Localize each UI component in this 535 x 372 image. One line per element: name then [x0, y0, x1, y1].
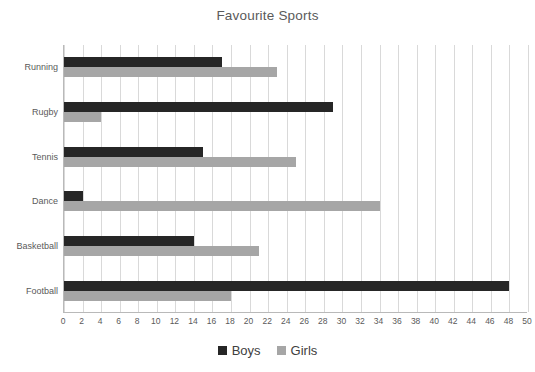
- legend-swatch-icon-girls: [277, 346, 286, 355]
- x-axis-tick-26: 26: [300, 316, 309, 326]
- x-axis-tick-12: 12: [170, 316, 179, 326]
- y-axis-label-football: Football: [0, 268, 58, 313]
- x-axis-tick-32: 32: [355, 316, 364, 326]
- x-axis-tick-20: 20: [244, 316, 253, 326]
- bar-tennis-girls: [64, 157, 296, 167]
- y-axis-label-tennis: Tennis: [0, 134, 58, 179]
- bar-running-boys: [64, 57, 222, 67]
- bar-group-basketball: [64, 224, 527, 269]
- x-axis-tick-50: 50: [522, 316, 531, 326]
- y-axis-label-rugby: Rugby: [0, 90, 58, 135]
- y-axis-label-dance: Dance: [0, 179, 58, 224]
- x-axis-tick-46: 46: [485, 316, 494, 326]
- gridline: [528, 45, 529, 312]
- bar-group-running: [64, 45, 527, 90]
- bar-rugby-girls: [64, 112, 101, 122]
- bar-dance-girls: [64, 201, 380, 211]
- bar-football-girls: [64, 291, 231, 301]
- x-axis-tick-8: 8: [135, 316, 140, 326]
- x-axis-tick-30: 30: [337, 316, 346, 326]
- legend-swatch-icon-boys: [218, 346, 227, 355]
- legend-label-girls: Girls: [291, 343, 318, 358]
- x-axis-tick-4: 4: [98, 316, 103, 326]
- x-axis-tick-44: 44: [467, 316, 476, 326]
- bar-group-dance: [64, 179, 527, 224]
- bar-group-rugby: [64, 90, 527, 135]
- legend-item-girls[interactable]: Girls: [277, 343, 318, 358]
- x-axis-tick-42: 42: [448, 316, 457, 326]
- x-axis-tick-40: 40: [429, 316, 438, 326]
- bar-rows: [64, 45, 527, 312]
- x-axis-tick-16: 16: [207, 316, 216, 326]
- y-axis-category-labels: RunningRugbyTennisDanceBasketballFootbal…: [0, 45, 58, 313]
- x-axis-tick-38: 38: [411, 316, 420, 326]
- x-axis-tick-28: 28: [318, 316, 327, 326]
- chart-legend: BoysGirls: [0, 343, 535, 358]
- x-axis-tick-2: 2: [79, 316, 84, 326]
- x-axis-tick-24: 24: [281, 316, 290, 326]
- x-axis-tick-36: 36: [392, 316, 401, 326]
- y-axis-label-running: Running: [0, 45, 58, 90]
- x-axis-tick-10: 10: [151, 316, 160, 326]
- x-axis-tick-34: 34: [374, 316, 383, 326]
- x-axis-tick-14: 14: [188, 316, 197, 326]
- bar-tennis-boys: [64, 147, 203, 157]
- chart-title: Favourite Sports: [0, 8, 535, 23]
- bar-rugby-boys: [64, 102, 333, 112]
- bar-basketball-boys: [64, 236, 194, 246]
- x-axis-tick-48: 48: [504, 316, 513, 326]
- legend-label-boys: Boys: [232, 343, 261, 358]
- bar-basketball-girls: [64, 246, 259, 256]
- x-axis-tick-6: 6: [116, 316, 121, 326]
- y-axis-label-basketball: Basketball: [0, 224, 58, 269]
- bar-running-girls: [64, 67, 277, 77]
- bar-group-football: [64, 268, 527, 313]
- chart-container: Favourite Sports RunningRugbyTennisDance…: [0, 0, 535, 372]
- bar-group-tennis: [64, 134, 527, 179]
- bar-football-boys: [64, 281, 509, 291]
- plot-area: [63, 45, 527, 313]
- x-axis-tick-labels: 0246810121416182022242628303234363840424…: [63, 316, 527, 330]
- x-axis-tick-18: 18: [225, 316, 234, 326]
- x-axis-tick-22: 22: [262, 316, 271, 326]
- bar-dance-boys: [64, 191, 83, 201]
- x-axis-tick-0: 0: [61, 316, 66, 326]
- legend-item-boys[interactable]: Boys: [218, 343, 261, 358]
